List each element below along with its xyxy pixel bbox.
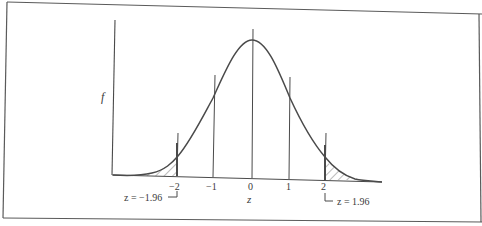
annotation-z-1-96: z = 1.96 [337, 196, 370, 207]
tick-label-minus-2: −2 [169, 181, 180, 192]
tick-label-2: 2 [321, 181, 326, 192]
tick-label-minus-1: −1 [206, 181, 217, 192]
normal-distribution-figure: f z −2 −1 0 1 2 z = −1.96 z = 1.96 [0, 0, 482, 226]
tick-label-0: 0 [248, 181, 253, 192]
line-z-minus-1 [213, 75, 215, 177]
normal-density-curve [113, 40, 382, 182]
line-z-0 [252, 29, 253, 178]
line-z-1 [289, 77, 290, 179]
x-axis-label: z [246, 193, 252, 205]
y-axis-label: f [101, 90, 106, 104]
annotation-right-bracket [325, 193, 333, 201]
left-tail-shaded-region [140, 159, 177, 176]
tick-label-1: 1 [286, 181, 291, 192]
y-axis [112, 20, 115, 175]
annotation-z-minus-1-96: z = −1.96 [124, 192, 162, 203]
z-value-lines [177, 29, 326, 180]
page-frame [3, 2, 482, 222]
